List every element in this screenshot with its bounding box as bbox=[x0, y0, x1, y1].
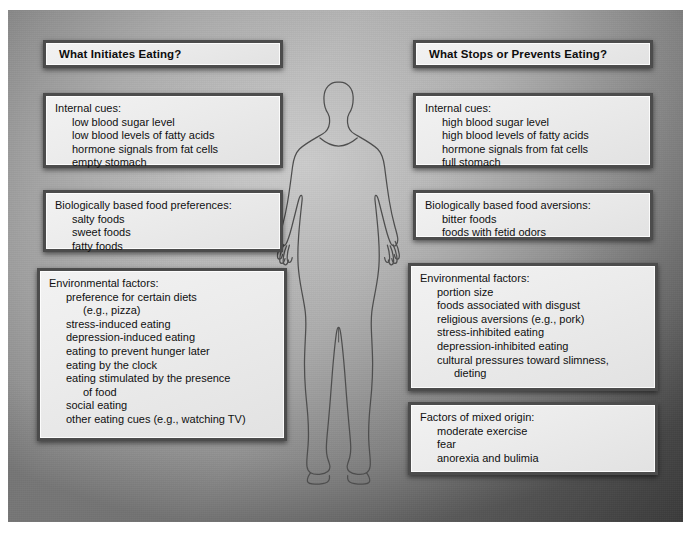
group-item-list: portion size foods associated with disgu… bbox=[420, 286, 646, 381]
list-item: eating to prevent hunger later bbox=[66, 345, 275, 359]
right-column-header: What Stops or Prevents Eating? bbox=[413, 40, 653, 68]
left-group-internal-cues: Internal cues: low blood sugar level low… bbox=[43, 93, 283, 168]
list-item: stress-induced eating bbox=[66, 318, 275, 332]
list-item: fear bbox=[437, 438, 646, 452]
list-item: (e.g., pizza) bbox=[66, 304, 275, 318]
left-group-food-preferences: Biologically based food preferences: sal… bbox=[43, 190, 283, 252]
list-item: hormone signals from fat cells bbox=[72, 143, 271, 157]
list-item: high blood sugar level bbox=[442, 116, 641, 130]
list-item: foods associated with disgust bbox=[437, 299, 646, 313]
group-item-list: low blood sugar level low blood levels o… bbox=[55, 116, 271, 170]
list-item: sweet foods bbox=[72, 226, 271, 240]
diagram-poster: What Initiates Eating? Internal cues: lo… bbox=[8, 10, 683, 522]
list-item: moderate exercise bbox=[437, 425, 646, 439]
list-item: full stomach bbox=[442, 156, 641, 170]
group-item-list: bitter foods foods with fetid odors bbox=[425, 213, 641, 240]
left-column-header-text: What Initiates Eating? bbox=[59, 48, 181, 60]
group-title: Biologically based food preferences: bbox=[55, 199, 271, 213]
right-group-mixed-origin: Factors of mixed origin: moderate exerci… bbox=[408, 402, 658, 475]
list-item: eating stimulated by the presence bbox=[66, 372, 275, 386]
list-item: preference for certain diets bbox=[66, 291, 275, 305]
list-item: fatty foods bbox=[72, 240, 271, 254]
list-item: depression-inhibited eating bbox=[437, 340, 646, 354]
list-item: religious aversions (e.g., pork) bbox=[437, 313, 646, 327]
list-item: foods with fetid odors bbox=[442, 226, 641, 240]
group-title: Biologically based food aversions: bbox=[425, 199, 641, 213]
list-item: social eating bbox=[66, 399, 275, 413]
group-title: Internal cues: bbox=[425, 102, 641, 116]
list-item: low blood sugar level bbox=[72, 116, 271, 130]
list-item: salty foods bbox=[72, 213, 271, 227]
right-group-food-aversions: Biologically based food aversions: bitte… bbox=[413, 190, 653, 240]
right-column-header-text: What Stops or Prevents Eating? bbox=[429, 48, 607, 60]
list-item: high blood levels of fatty acids bbox=[442, 129, 641, 143]
right-group-environmental-factors: Environmental factors: portion size food… bbox=[408, 263, 658, 391]
left-group-environmental-factors: Environmental factors: preference for ce… bbox=[37, 268, 287, 441]
list-item: bitter foods bbox=[442, 213, 641, 227]
right-group-internal-cues: Internal cues: high blood sugar level hi… bbox=[413, 93, 653, 168]
list-item: of food bbox=[66, 386, 275, 400]
list-item: portion size bbox=[437, 286, 646, 300]
left-column-header: What Initiates Eating? bbox=[43, 40, 283, 68]
list-item: stress-inhibited eating bbox=[437, 326, 646, 340]
list-item: anorexia and bulimia bbox=[437, 452, 646, 466]
list-item: low blood levels of fatty acids bbox=[72, 129, 271, 143]
group-item-list: salty foods sweet foods fatty foods bbox=[55, 213, 271, 254]
group-title: Internal cues: bbox=[55, 102, 271, 116]
group-item-list: high blood sugar level high blood levels… bbox=[425, 116, 641, 170]
list-item: depression-induced eating bbox=[66, 331, 275, 345]
list-item: eating by the clock bbox=[66, 359, 275, 373]
list-item: cultural pressures toward slimness, bbox=[437, 354, 646, 368]
list-item: dieting bbox=[437, 367, 646, 381]
list-item: empty stomach bbox=[72, 156, 271, 170]
group-title: Environmental factors: bbox=[49, 277, 275, 291]
list-item: hormone signals from fat cells bbox=[442, 143, 641, 157]
group-item-list: preference for certain diets (e.g., pizz… bbox=[49, 291, 275, 427]
group-title: Factors of mixed origin: bbox=[420, 411, 646, 425]
list-item: other eating cues (e.g., watching TV) bbox=[66, 413, 275, 427]
group-item-list: moderate exercise fear anorexia and buli… bbox=[420, 425, 646, 466]
group-title: Environmental factors: bbox=[420, 272, 646, 286]
